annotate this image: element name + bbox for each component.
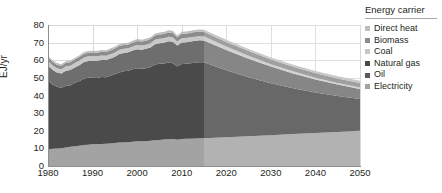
legend-title: Energy carrier xyxy=(365,4,442,15)
legend-swatch-icon xyxy=(365,26,370,31)
legend-item-coal[interactable]: Coal xyxy=(365,46,442,58)
legend: Energy carrier Direct heatBiomassCoalNat… xyxy=(365,4,442,93)
x-tick-label-2030: 2030 xyxy=(251,168,291,178)
x-tick-label-1990: 1990 xyxy=(73,168,113,178)
legend-item-natural-gas[interactable]: Natural gas xyxy=(365,58,442,70)
y-tick-label-30: 30 xyxy=(0,108,44,118)
y-tick-label-10: 10 xyxy=(0,143,44,153)
plot-area xyxy=(48,25,360,166)
legend-item-label: Electricity xyxy=(374,81,413,93)
legend-item-label: Biomass xyxy=(374,35,409,47)
y-tick-label-40: 40 xyxy=(0,91,44,101)
gridline-x-2050 xyxy=(360,25,361,166)
legend-swatch-icon xyxy=(365,84,370,89)
legend-item-label: Coal xyxy=(374,46,393,58)
x-tick-label-2010: 2010 xyxy=(162,168,202,178)
y-tick-label-50: 50 xyxy=(0,73,44,83)
x-tick-label-2020: 2020 xyxy=(206,168,246,178)
y-tick-label-60: 60 xyxy=(0,55,44,65)
legend-item-label: Natural gas xyxy=(374,58,420,70)
legend-item-direct-heat[interactable]: Direct heat xyxy=(365,23,442,35)
legend-item-oil[interactable]: Oil xyxy=(365,69,442,81)
legend-item-biomass[interactable]: Biomass xyxy=(365,35,442,47)
legend-divider xyxy=(365,18,437,19)
y-axis-ticks: 01020304050607080 xyxy=(0,0,44,193)
legend-item-label: Oil xyxy=(374,69,385,81)
legend-swatch-icon xyxy=(365,49,370,54)
x-tick-label-2040: 2040 xyxy=(295,168,335,178)
legend-swatch-icon xyxy=(365,61,370,66)
x-tick-label-2000: 2000 xyxy=(117,168,157,178)
stacked-area-chart: EJ/yr 01020304050607080 1980199020002010… xyxy=(0,0,442,193)
y-tick-label-20: 20 xyxy=(0,126,44,136)
x-tick-label-2050: 2050 xyxy=(340,168,380,178)
legend-item-label: Direct heat xyxy=(374,23,418,35)
y-tick-label-70: 70 xyxy=(0,38,44,48)
legend-items: Direct heatBiomassCoalNatural gasOilElec… xyxy=(365,23,442,93)
legend-swatch-icon xyxy=(365,73,370,78)
y-tick-label-80: 80 xyxy=(0,20,44,30)
x-tick-label-1980: 1980 xyxy=(28,168,68,178)
legend-swatch-icon xyxy=(365,38,370,43)
area-series-layer xyxy=(48,25,360,166)
legend-item-electricity[interactable]: Electricity xyxy=(365,81,442,93)
